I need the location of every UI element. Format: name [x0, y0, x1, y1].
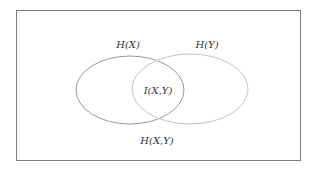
label-hxy: H(X,Y): [139, 135, 174, 146]
label-hx: H(X): [115, 39, 140, 50]
venn-diagram: H(X) H(Y) I(X,Y) H(X,Y): [0, 0, 315, 172]
label-ixy: I(X,Y): [143, 85, 173, 96]
label-hy: H(Y): [194, 39, 218, 50]
